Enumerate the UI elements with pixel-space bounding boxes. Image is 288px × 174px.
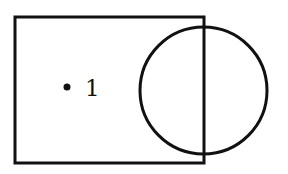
diagram-canvas: 1: [0, 0, 288, 174]
square-region: [15, 17, 204, 163]
point-1-label: 1: [85, 75, 100, 101]
diagram-svg: 1: [0, 0, 288, 174]
point-1-dot: [64, 84, 71, 91]
